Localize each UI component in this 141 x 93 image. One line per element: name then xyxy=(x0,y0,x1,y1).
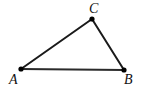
triangle-figure: A B C xyxy=(0,0,141,93)
vertex-dot-c xyxy=(89,16,94,21)
vertex-label-b: B xyxy=(124,73,133,87)
triangle-svg xyxy=(0,0,141,93)
edge-bc xyxy=(92,19,124,70)
vertex-label-c: C xyxy=(89,2,98,16)
edge-ac xyxy=(21,19,92,69)
vertex-dot-a xyxy=(18,66,23,71)
vertex-label-a: A xyxy=(9,73,18,87)
edge-ab xyxy=(21,69,124,70)
